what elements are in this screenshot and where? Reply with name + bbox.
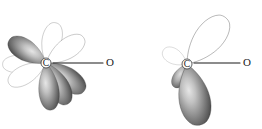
right-orbital-diagram: C O: [159, 9, 251, 129]
right-shaded-lobes: [169, 61, 216, 128]
orbital-diagram-figure: C O C O: [0, 0, 262, 129]
left-terminal-atom-label: O: [106, 56, 114, 68]
left-orbital-diagram: C O: [2, 20, 114, 111]
left-center-atom-label: C: [43, 58, 49, 68]
right-center-atom-label: C: [184, 59, 190, 69]
right-terminal-atom-label: O: [243, 56, 251, 68]
orbital-diagram-canvas: C O C O: [0, 0, 262, 129]
